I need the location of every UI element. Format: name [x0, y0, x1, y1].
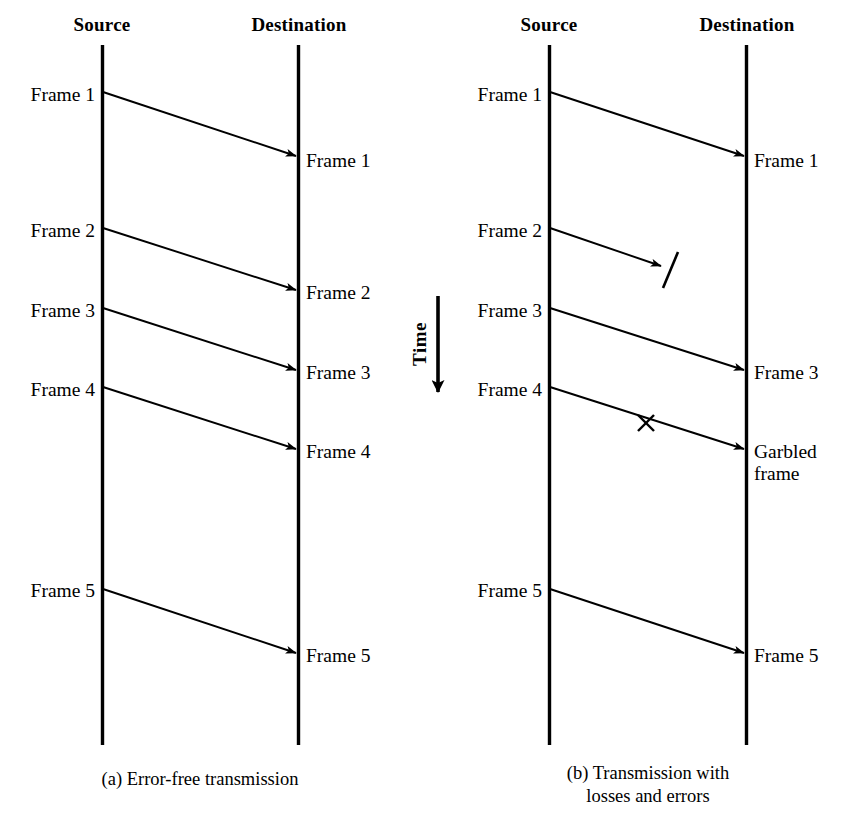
panel-a-source-header: Source — [74, 14, 131, 36]
time-axis-label: Time — [409, 322, 431, 366]
panel-a-receive-label-frame-2: Frame 2 — [306, 282, 370, 304]
panel-b-arrow-frame-1 — [550, 92, 744, 156]
panel-b-destination-header: Destination — [699, 14, 794, 36]
panel-a-send-label-frame-2: Frame 2 — [31, 220, 95, 242]
panel-b-arrow-frame-5 — [550, 589, 744, 653]
panel-b-send-label-frame-5: Frame 5 — [478, 580, 542, 602]
panel-a-send-label-frame-5: Frame 5 — [31, 580, 95, 602]
panel-a-receive-label-frame-3: Frame 3 — [306, 362, 370, 384]
panel-a-destination-header: Destination — [251, 14, 346, 36]
panel-a-receive-label-frame-5: Frame 5 — [306, 645, 370, 667]
panel-b-arrow-frame-2-lost — [550, 228, 661, 266]
panel-b-send-label-frame-1: Frame 1 — [478, 84, 542, 106]
panel-b-receive-label-garbled-frame: Garbled frame — [754, 441, 817, 485]
panel-a-receive-label-frame-1: Frame 1 — [306, 150, 370, 172]
panel-a-vectors — [103, 45, 299, 745]
panel-b-send-label-frame-3: Frame 3 — [478, 300, 542, 322]
panel-b-arrow-frame-4-garbled — [550, 387, 744, 449]
panel-a-send-label-frame-1: Frame 1 — [31, 84, 95, 106]
panel-b-caption: (b) Transmission with losses and errors — [567, 762, 729, 808]
panel-a-arrow-frame-3 — [103, 308, 296, 370]
panel-a-arrow-frame-4 — [103, 387, 296, 449]
frame-lost-slash-icon — [663, 252, 678, 288]
panel-b-receive-label-frame-5: Frame 5 — [754, 645, 818, 667]
panel-a-caption: (a) Error-free transmission — [102, 768, 299, 791]
panel-b-receive-label-frame-3: Frame 3 — [754, 362, 818, 384]
panel-a-arrow-frame-5 — [103, 589, 296, 653]
panel-b-send-label-frame-4: Frame 4 — [478, 379, 542, 401]
figure-canvas: Source Destination Frame 1 Frame 2 Frame… — [0, 0, 844, 835]
panel-a-send-label-frame-4: Frame 4 — [31, 379, 95, 401]
panel-b-arrow-frame-3 — [550, 308, 744, 370]
panel-a-arrow-frame-2 — [103, 228, 296, 290]
panel-a-receive-label-frame-4: Frame 4 — [306, 441, 370, 463]
panel-b-receive-label-frame-1: Frame 1 — [754, 150, 818, 172]
panel-a-arrow-frame-1 — [103, 92, 296, 156]
panel-b-vectors — [550, 45, 747, 745]
panel-a-send-label-frame-3: Frame 3 — [31, 300, 95, 322]
panel-b-source-header: Source — [521, 14, 578, 36]
frame-error-cross-icon — [638, 415, 654, 431]
panel-b-send-label-frame-2: Frame 2 — [478, 220, 542, 242]
diagram-vector-layer — [0, 0, 844, 835]
